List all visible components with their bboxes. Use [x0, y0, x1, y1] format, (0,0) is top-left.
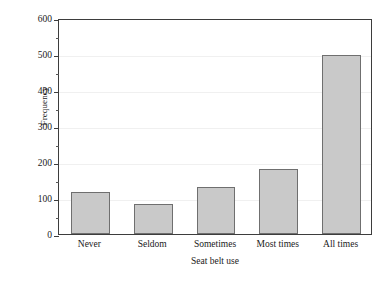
y-axis-tick-major: [54, 20, 59, 21]
x-axis-category-label: Most times: [257, 240, 300, 250]
bar: [134, 204, 173, 234]
y-axis-tick-label: 200: [38, 159, 52, 169]
y-axis-tick-major: [54, 128, 59, 129]
y-axis-tick-minor: [56, 218, 59, 219]
bar-chart-figure: Frequency 0100200300400500600 Seat belt …: [0, 0, 391, 281]
y-axis-tick-label: 500: [38, 51, 52, 61]
y-axis-tick-major: [54, 200, 59, 201]
x-axis-category-label: Never: [78, 240, 101, 250]
y-axis-tick-minor: [56, 182, 59, 183]
y-axis-tick-major: [54, 164, 59, 165]
bar: [71, 192, 110, 234]
y-axis-tick-minor: [56, 110, 59, 111]
y-axis-tick-label: 0: [47, 231, 52, 241]
y-axis-tick-minor: [56, 74, 59, 75]
y-axis-tick-major: [54, 56, 59, 57]
x-axis-category-label: Seldom: [138, 240, 167, 250]
x-axis-category-label: Sometimes: [194, 240, 236, 250]
y-axis-tick-major: [54, 92, 59, 93]
bar: [259, 169, 298, 234]
plot-area: 0100200300400500600: [58, 19, 372, 235]
bar-layer: [59, 20, 371, 234]
x-axis-title: Seat belt use: [58, 257, 372, 267]
y-axis-tick-label: 300: [38, 123, 52, 133]
y-axis-tick-minor: [56, 38, 59, 39]
bar: [197, 187, 236, 234]
y-axis-tick-label: 100: [38, 195, 52, 205]
y-axis-tick-label: 400: [38, 87, 52, 97]
x-axis-category-label: All times: [323, 240, 358, 250]
y-axis-title: Frequency: [39, 66, 49, 146]
bar: [322, 55, 361, 234]
y-axis-tick-minor: [56, 146, 59, 147]
y-axis-tick-major: [54, 236, 59, 237]
y-axis-tick-label: 600: [38, 15, 52, 25]
